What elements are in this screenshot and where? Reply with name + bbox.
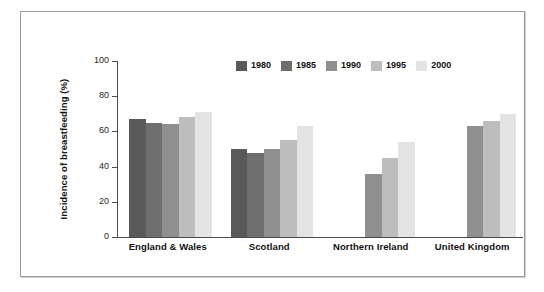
bar-1995 xyxy=(483,121,500,237)
bar-2000 xyxy=(195,112,212,237)
bar-1990 xyxy=(467,126,484,237)
bar-1985 xyxy=(247,153,264,237)
bar-2000 xyxy=(297,126,314,237)
bar-1990 xyxy=(365,174,382,237)
chart-figure: 19801985199019952000 Incidence of breast… xyxy=(0,0,544,292)
y-tick-label: 100 xyxy=(94,54,109,67)
bar-2000 xyxy=(398,142,415,237)
bar-1980 xyxy=(231,149,248,237)
x-axis-group-label: Northern Ireland xyxy=(320,241,422,252)
y-tick-label: 0 xyxy=(104,230,109,243)
bar-group: Scotland xyxy=(219,61,321,237)
x-axis-group-label: United Kingdom xyxy=(422,241,524,252)
bar-2000 xyxy=(500,114,517,237)
bar-group: Northern Ireland xyxy=(320,61,422,237)
y-tick-label: 60 xyxy=(99,124,109,137)
y-tick-label: 80 xyxy=(99,89,109,102)
x-axis-group-label: England & Wales xyxy=(117,241,219,252)
bar-1990 xyxy=(162,124,179,237)
bar-1985 xyxy=(146,123,163,237)
y-axis-title: Incidence of breastfeeding (%) xyxy=(57,61,71,237)
bar-1990 xyxy=(264,149,281,237)
bar-1995 xyxy=(280,140,297,237)
y-tick-label: 40 xyxy=(99,160,109,173)
bar-1995 xyxy=(179,117,196,237)
bar-group: United Kingdom xyxy=(422,61,524,237)
bar-1980 xyxy=(129,119,146,237)
figure-frame: 19801985199019952000 Incidence of breast… xyxy=(20,11,525,277)
y-tick-mark xyxy=(112,237,117,238)
bar-group: England & Wales xyxy=(117,61,219,237)
x-axis-line xyxy=(117,237,523,238)
bar-1995 xyxy=(382,158,399,237)
y-tick-label: 20 xyxy=(99,195,109,208)
x-axis-group-label: Scotland xyxy=(219,241,321,252)
plot-area: 020406080100 England & WalesScotlandNort… xyxy=(117,61,523,237)
